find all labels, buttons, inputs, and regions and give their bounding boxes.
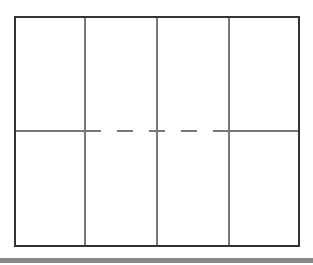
grid-cell-r1-c2 bbox=[85, 17, 157, 131]
grid-cell-r2-c4 bbox=[229, 131, 299, 246]
grid-cell-r2-c2 bbox=[85, 131, 157, 246]
grid-cell-r2-c1 bbox=[15, 131, 85, 246]
grid-cell-r1-c3 bbox=[157, 17, 229, 131]
grid-cell-r2-c3 bbox=[157, 131, 229, 246]
grid-cell-r1-c4 bbox=[229, 17, 299, 131]
grid-cell-r1-c1 bbox=[15, 17, 85, 131]
bottom-divider-bar bbox=[0, 258, 313, 263]
grid-diagram bbox=[0, 0, 313, 265]
